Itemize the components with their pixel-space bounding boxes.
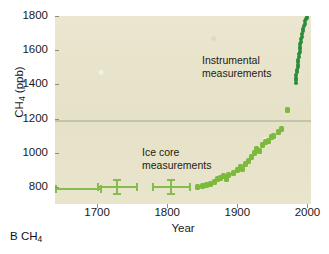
y-tick-mark <box>55 187 59 188</box>
annotation-instrumental: Instrumental measurements <box>202 54 271 79</box>
figure-panel-b: Instrumental measurements Ice core measu… <box>0 0 329 254</box>
y-tick-label: 1200 <box>0 113 48 124</box>
panel-letter: B <box>10 230 18 242</box>
x-tick-mark <box>97 204 98 208</box>
x-axis-label: Year <box>55 222 311 234</box>
y-tick-label: 1800 <box>0 10 48 21</box>
plot-background-texture <box>55 16 311 204</box>
plot-area: Instrumental measurements Ice core measu… <box>55 16 311 204</box>
x-tick-mark <box>167 204 168 208</box>
ice-core-data-point <box>285 107 290 113</box>
error-bar-cap <box>167 193 175 195</box>
error-bar-vertical <box>170 180 172 194</box>
y-tick-mark <box>55 153 59 154</box>
y-tick-mark <box>55 50 59 51</box>
y-tick-mark <box>55 119 59 120</box>
x-tick-mark <box>237 204 238 208</box>
gridline-horizontal <box>55 120 311 122</box>
error-bar-cap <box>152 183 154 191</box>
annotation-instrumental-line1: Instrumental <box>202 54 271 67</box>
annotation-ice-core: Ice core measurements <box>142 146 211 171</box>
y-tick-label: 1600 <box>0 44 48 55</box>
panel-caption: B CH4 <box>10 230 42 242</box>
error-bar-cap <box>113 193 121 195</box>
y-axis-label-sub: 4 <box>17 96 27 101</box>
y-tick-label: 1000 <box>0 147 48 158</box>
error-bar-horizontal <box>55 188 100 190</box>
y-tick-label: 800 <box>0 181 48 192</box>
y-tick-label: 1400 <box>0 78 48 89</box>
annotation-ice-core-line1: Ice core <box>142 146 211 159</box>
annotation-ice-core-line2: measurements <box>142 159 211 172</box>
caption-species: CH <box>21 230 38 242</box>
caption-species-sub: 4 <box>38 234 43 244</box>
ice-core-data-point <box>279 126 284 132</box>
x-tick-mark <box>307 204 308 208</box>
y-tick-mark <box>55 16 59 17</box>
ice-core-data-point <box>240 166 245 172</box>
ice-core-data-point <box>257 148 262 154</box>
error-bar-cap <box>136 183 138 191</box>
error-bar-cap <box>97 183 99 191</box>
error-bar-cap <box>189 183 191 191</box>
y-tick-mark <box>55 84 59 85</box>
error-bar-cap <box>167 179 175 181</box>
error-bar-vertical <box>116 180 118 194</box>
error-bar-cap <box>113 179 121 181</box>
x-tick-label: 2000 <box>282 206 329 218</box>
annotation-instrumental-line2: measurements <box>202 67 271 80</box>
